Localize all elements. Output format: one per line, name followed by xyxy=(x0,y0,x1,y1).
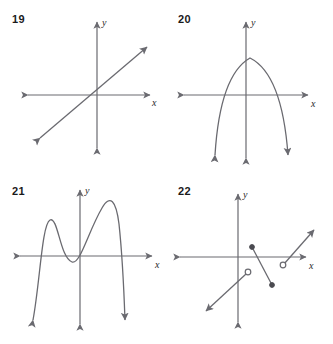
exercise-panel-19: 19 x y xyxy=(0,0,166,172)
x-axis-label-21: x xyxy=(154,259,160,270)
graph-21: x y xyxy=(0,172,166,344)
exercise-panel-21: 21 x y xyxy=(0,172,166,344)
closed-endpoint-lower-22 xyxy=(270,283,275,288)
graph-22: x y xyxy=(166,172,332,344)
ray-down-left-22 xyxy=(206,274,246,311)
closed-endpoint-upper-22 xyxy=(250,245,255,250)
graph-20: x y xyxy=(166,0,332,172)
quartic-curve-21 xyxy=(33,201,125,320)
ray-up-right-22 xyxy=(284,230,314,264)
y-axis-label-20: y xyxy=(250,17,256,28)
x-axis-label-22: x xyxy=(308,260,314,271)
x-axis-label-20: x xyxy=(310,98,316,109)
x-axis-label-19: x xyxy=(151,97,157,108)
open-endpoint-right-22 xyxy=(280,262,286,268)
graph-19: x y xyxy=(0,0,166,172)
exercise-panel-20: 20 x y xyxy=(166,0,332,172)
open-endpoint-left-22 xyxy=(245,269,251,275)
y-axis-label-21: y xyxy=(84,185,90,196)
segment-descending-22 xyxy=(252,247,272,285)
line-curve-19 xyxy=(40,47,147,138)
y-axis-label-22: y xyxy=(242,189,248,200)
parabola-curve-20 xyxy=(215,58,288,155)
y-axis-label-19: y xyxy=(101,17,107,28)
exercise-panel-22: 22 x y xyxy=(166,172,332,344)
exercise-grid: 19 x y 20 xyxy=(0,0,333,344)
